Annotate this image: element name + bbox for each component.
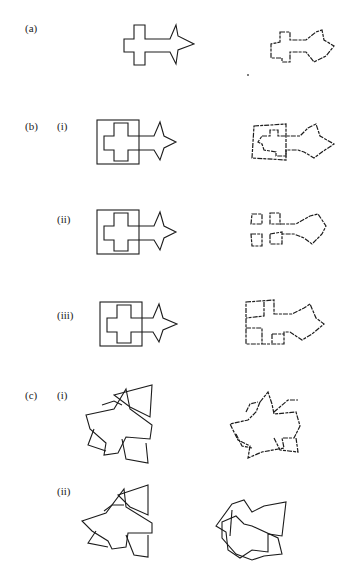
panel-label-b-ii: (ii)	[57, 213, 70, 226]
rotated-shapes-c-i-left	[78, 383, 168, 463]
arrow-cross-in-square-b-i-left	[94, 118, 184, 170]
rotated-shapes-c-ii-left	[78, 485, 168, 557]
reconstructed-shape-a-right	[268, 26, 338, 68]
panel-label-c: (c)	[25, 389, 37, 402]
panel-label-b-iii: (iii)	[57, 309, 74, 322]
fragmented-reconstruction-b-ii-right	[248, 210, 338, 254]
panel-label-b-i: (i)	[57, 120, 67, 133]
figure-caption-cropped	[8, 569, 351, 576]
arrow-cross-in-square-b-iii-left	[97, 300, 187, 352]
panel-label-c-i: (i)	[57, 389, 67, 402]
partitioned-reconstruction-b-iii-right	[244, 298, 334, 350]
panel-label-b: (b)	[25, 120, 38, 133]
reconstructed-rotated-shapes-c-ii-right	[212, 496, 304, 568]
arrow-cross-shape-a-left	[120, 20, 200, 70]
reconstructed-square-b-i-right	[250, 122, 340, 168]
panel-label-c-ii: (ii)	[57, 485, 70, 498]
panel-label-a: (a)	[25, 22, 37, 35]
reconstructed-rotated-shapes-c-i-right	[228, 390, 320, 470]
arrow-cross-in-square-b-ii-left	[94, 206, 184, 258]
stray-dot	[247, 74, 249, 76]
